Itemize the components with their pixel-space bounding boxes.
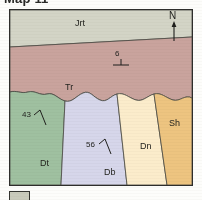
map-unit-dt[interactable] bbox=[10, 91, 65, 185]
map-label-db: Db bbox=[104, 167, 116, 177]
map-label-dt: Dt bbox=[40, 158, 49, 168]
legend bbox=[9, 191, 35, 200]
legend-swatch[interactable] bbox=[9, 191, 30, 200]
map-label-jrt: Jrt bbox=[75, 18, 85, 28]
dip-value-43: 43 bbox=[22, 110, 31, 119]
dip-value-56: 56 bbox=[86, 140, 95, 149]
figure-caption-strip: Map 11 bbox=[0, 0, 202, 9]
geologic-map: Jrt Tr Dt Db Dn Sh 6 43 56 N bbox=[9, 9, 193, 186]
map-polygons bbox=[10, 10, 192, 185]
figure-caption: Map 11 bbox=[4, 0, 49, 6]
map-label-sh: Sh bbox=[169, 118, 180, 128]
dip-value-6: 6 bbox=[115, 49, 119, 58]
north-arrow-label: N bbox=[169, 10, 176, 21]
map-unit-tr[interactable] bbox=[10, 37, 192, 101]
map-unit-db[interactable] bbox=[61, 92, 127, 185]
figure-page: Map 11 bbox=[0, 0, 202, 200]
map-label-dn: Dn bbox=[140, 141, 152, 151]
map-label-tr: Tr bbox=[65, 82, 73, 92]
